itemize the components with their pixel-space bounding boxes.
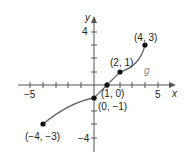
curve-label: g — [144, 65, 150, 76]
y-axis-label: y — [84, 12, 91, 23]
point-1-0 — [104, 82, 109, 87]
point-2-1 — [117, 69, 122, 74]
point-4-3 — [142, 42, 147, 47]
y-tick-label: 4 — [82, 26, 88, 37]
x-tick-label: 5 — [155, 89, 161, 100]
point-label: (1, 0) — [101, 88, 124, 99]
point-label: (4, 3) — [134, 32, 157, 43]
x-axis-label: x — [171, 88, 178, 99]
point-neg4-neg3 — [40, 121, 45, 126]
y-axis-arrow-icon — [91, 16, 97, 23]
point-0-neg1 — [91, 95, 96, 100]
point-label: (2, 1) — [110, 57, 133, 68]
y-tick-label: −4 — [78, 133, 90, 144]
function-graph: −5 5 4 −4 x y (−4, −3) (0, −1) (1, 0) (2… — [0, 0, 189, 161]
x-tick-label: −5 — [24, 89, 36, 100]
point-label: (−4, −3) — [25, 131, 60, 142]
point-label: (0, −1) — [98, 101, 127, 112]
